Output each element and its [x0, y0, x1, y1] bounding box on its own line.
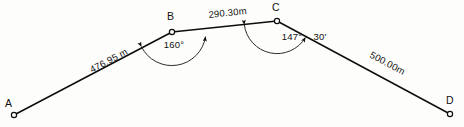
survey-traverse-diagram: A B C D 476.95 m 290.30m 500.00m 160° 14… [0, 0, 464, 127]
angle-labels: 160° 147° 30' [164, 31, 327, 50]
station-marker-b [169, 29, 174, 34]
station-label-b: B [167, 10, 174, 22]
station-label-a: A [5, 97, 12, 109]
station-marker-a [11, 112, 16, 117]
angle-label-c-minutes: 30' [314, 31, 327, 42]
distance-labels: 476.95 m 290.30m 500.00m [88, 5, 407, 77]
traverse-leg-bc [172, 21, 277, 32]
distance-label-ab: 476.95 m [88, 46, 130, 75]
traverse-leg-cd [277, 21, 450, 114]
distance-label-bc: 290.30m [208, 5, 247, 20]
traverse-canvas: A B C D 476.95 m 290.30m 500.00m 160° 14… [0, 0, 464, 127]
station-marker-d [447, 111, 452, 116]
station-label-c: C [272, 1, 280, 13]
traverse-legs [14, 21, 450, 115]
angle-label-c-degrees: 147° [282, 31, 302, 42]
angle-label-b-degrees: 160° [164, 39, 184, 50]
station-label-d: D [446, 94, 454, 106]
station-marker-c [274, 18, 279, 23]
